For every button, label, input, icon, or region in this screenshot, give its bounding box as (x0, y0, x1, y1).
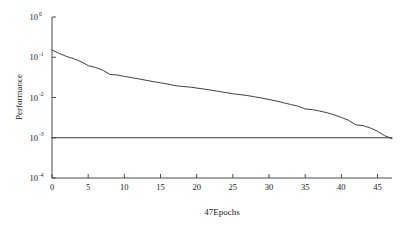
x-axis-title: 47Epochs (204, 207, 240, 217)
x-tick-label: 0 (50, 182, 54, 192)
y-tick-mantissa: 10 (30, 52, 39, 62)
y-tick-exponent: -1 (39, 51, 44, 57)
y-tick-exponent: -3 (39, 131, 44, 137)
y-tick-mantissa: 10 (30, 12, 39, 22)
x-tick-label: 15 (156, 182, 165, 192)
x-tick-label: 40 (337, 182, 346, 192)
chart-background (0, 0, 416, 230)
x-tick-label: 45 (373, 182, 382, 192)
x-tick-label: 35 (301, 182, 310, 192)
chart-canvas: 10010-110-210-310-4 051015202530354045 4… (0, 0, 416, 230)
x-tick-label: 25 (229, 182, 238, 192)
x-tick-label: 10 (120, 182, 129, 192)
y-tick-exponent: 0 (39, 11, 42, 17)
performance-chart: 10010-110-210-310-4 051015202530354045 4… (0, 0, 416, 230)
y-tick-exponent: -4 (39, 172, 44, 178)
y-tick-mantissa: 10 (30, 133, 39, 143)
x-tick-label: 30 (265, 182, 274, 192)
y-tick-mantissa: 10 (30, 173, 39, 183)
y-tick-mantissa: 10 (30, 93, 39, 103)
y-tick-exponent: -2 (39, 91, 44, 97)
y-axis-title: Performance (14, 74, 24, 120)
x-tick-label: 20 (192, 182, 201, 192)
x-tick-label: 5 (86, 182, 90, 192)
